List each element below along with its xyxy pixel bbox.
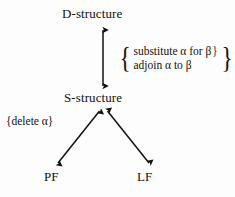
- annotation-deletion-rule: {delete α}: [6, 115, 53, 128]
- arrow-s-structure-to-lf: [108, 111, 150, 163]
- arrow-s-structure-to-pf: [58, 111, 100, 163]
- movement-rule-item: adjoin α to β: [133, 58, 218, 72]
- node-label-s-structure: S-structure: [64, 90, 122, 105]
- movement-rule-text: substitute α for β: [133, 44, 211, 58]
- node-label-d-structure: D-structure: [62, 6, 122, 21]
- movement-rule-item: substitute α for β }: [133, 44, 218, 58]
- annotation-movement-rules: { substitute α for β } adjoin α to β }: [118, 41, 235, 73]
- inline-right-brace-icon: }: [213, 44, 218, 58]
- movement-rule-list: substitute α for β } adjoin α to β: [132, 41, 218, 73]
- node-label-lf: LF: [137, 169, 152, 184]
- diagram-canvas: D-structure S-structure PF LF {delete α}…: [0, 0, 235, 197]
- right-brace-icon: }: [222, 41, 233, 73]
- movement-rule-text: adjoin α to β: [133, 58, 191, 72]
- left-brace-icon: {: [120, 41, 131, 73]
- node-label-pf: PF: [44, 169, 59, 184]
